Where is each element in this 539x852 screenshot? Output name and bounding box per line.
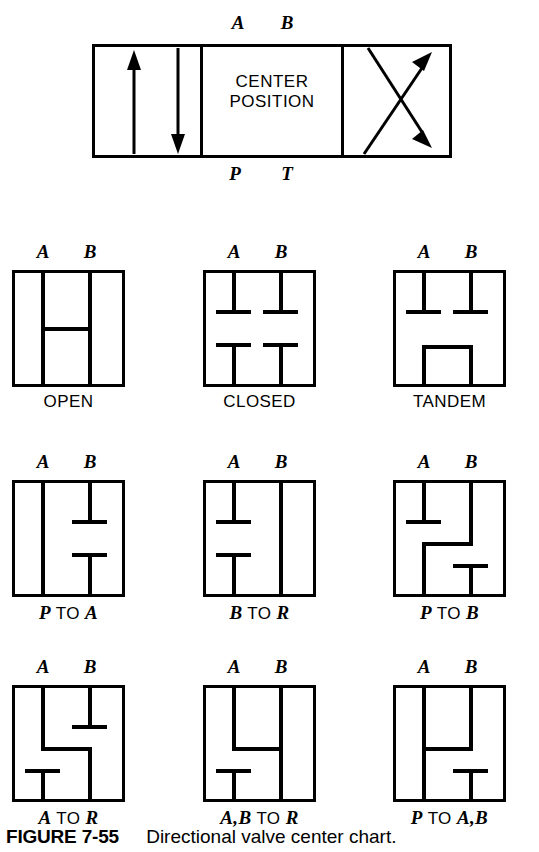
port-label-b: B [77,241,103,263]
cell-frame [393,480,506,597]
line-jog [41,747,92,751]
cap-p-bottom [216,553,251,557]
port-label-b: B [458,451,484,473]
port-label-a: A [411,241,437,263]
line-pa-open [41,480,45,597]
stub-a-top [232,480,236,522]
cap-a-top [406,310,441,314]
valve-cell-a-to-r: A B A TO R [12,685,125,802]
port-label-b: B [458,656,484,678]
line-jog [422,542,473,546]
port-label-a: A [30,656,56,678]
cap-t-bottom [263,343,298,347]
banner-label-b: B [274,12,300,34]
cell-caption: B TO R [185,602,334,624]
cap-t-bottom [453,769,488,773]
port-label-a: A [221,451,247,473]
caption-part-1: A,B [220,807,251,828]
cell-frame [393,270,506,387]
stub-a-top [422,270,426,312]
stub-t-bottom [279,345,283,387]
cell-caption: CLOSED [185,392,334,412]
figure-caption-text: Directional valve center chart. [146,826,396,847]
cap-a-top [216,310,251,314]
valve-cell-p-to-ab: A B P TO A,B [393,685,506,802]
valve-cell-closed: A B CLOSED [203,270,316,387]
cell-caption: TANDEM [375,392,524,412]
figure-number: FIGURE 7-55 [6,826,119,847]
caption-part-2: TO [242,604,276,623]
cap-a-top [406,520,441,524]
port-label-a: A [411,656,437,678]
caption-part-2: TO [432,604,466,623]
stub-b-top [88,685,92,727]
stub-b-top [88,480,92,522]
line-ab-bar [422,747,473,751]
line-a-descender [41,685,45,751]
cell-frame [12,480,125,597]
valve-cell-p-to-a: A B P TO A [12,480,125,597]
line-ab-bar [232,747,283,751]
port-label-a: A [30,451,56,473]
cap-p-bottom [216,769,251,773]
cell-frame [393,685,506,802]
line-p-riser [422,542,426,597]
cap-b-top [72,520,107,524]
center-position-text: CENTER POSITION [202,72,342,112]
port-label-a: A [30,241,56,263]
line-a-to-p [422,685,426,802]
cell-frame [203,685,316,802]
cell-frame [203,480,316,597]
line-p-bottom [422,345,426,387]
valve-cell-p-to-b: A B P TO B [393,480,506,597]
port-label-a: A [411,451,437,473]
cell-caption: P TO A [0,602,143,624]
cap-p-bottom [25,769,60,773]
line-b-to-t [279,685,283,802]
line-a-descender [232,685,236,751]
crossed-arrows-icon [344,44,452,158]
caption-part-3: R [277,602,290,623]
line-crossbar [41,327,92,331]
line-t-bottom [469,345,473,387]
caption-part-3: R [286,807,299,828]
stub-p-bottom [232,555,236,597]
banner-label-p: P [222,163,248,185]
cap-t-bottom [453,564,488,568]
banner-label-t: T [274,163,300,185]
caption-part-1: A [38,807,51,828]
stub-a-top [422,480,426,522]
stub-t-bottom [88,555,92,597]
stub-p-bottom [41,771,45,802]
port-label-a: A [221,656,247,678]
cell-frame [203,270,316,387]
valve-cell-open: A B OPEN [12,270,125,387]
directional-valve-center-chart: A B CENTER POSITION P T A B [0,0,539,852]
cell-caption: P TO B [375,602,524,624]
cap-a-top [216,520,251,524]
port-label-a: A [221,241,247,263]
stub-t-bottom [469,771,473,802]
line-br-open [279,480,283,597]
caption-part-3: R [86,807,99,828]
line-t-descender [88,747,92,802]
stub-p-bottom [232,771,236,802]
caption-part-3: B [466,602,479,623]
line-b-riser [469,480,473,546]
stub-a-top [232,270,236,312]
parallel-arrows-icon [92,44,200,158]
cap-b-top [72,725,107,729]
cap-p-bottom [216,343,251,347]
valve-cell-b-to-r: A B B TO R [203,480,316,597]
port-label-b: B [77,656,103,678]
caption-part-1: B [229,602,242,623]
caption-part-1: P [411,807,423,828]
caption-part-3: A,B [457,807,488,828]
port-label-b: B [268,241,294,263]
cell-caption: P TO A,B [375,807,524,829]
cap-b-top [263,310,298,314]
cell-caption: OPEN [0,392,143,412]
cap-t-bottom [72,553,107,557]
port-label-b: B [458,241,484,263]
caption-part-1: P [420,602,432,623]
